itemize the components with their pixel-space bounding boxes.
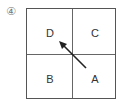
arrow-a-to-d-icon xyxy=(0,0,123,102)
